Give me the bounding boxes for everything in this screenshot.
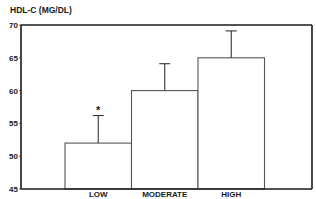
y-tick-label: 65 <box>9 54 18 63</box>
bar-moderate <box>132 91 199 189</box>
bar-high <box>198 58 265 189</box>
bar-low <box>65 143 132 189</box>
x-tick-label: MODERATE <box>142 190 188 199</box>
y-tick-label: 50 <box>9 152 18 161</box>
bar-chart: HDL-C (MG/DL) 455055606570 LOWMODERATEHI… <box>0 0 316 199</box>
y-axis-label: HDL-C (MG/DL) <box>10 5 72 15</box>
x-tick-label: LOW <box>89 190 108 199</box>
y-tick-label: 60 <box>9 87 18 96</box>
y-ticks: 455055606570 <box>9 21 21 194</box>
significance-asterisk: * <box>96 104 101 116</box>
y-tick-label: 45 <box>9 185 18 194</box>
y-tick-label: 70 <box>9 21 18 30</box>
x-tick-labels: LOWMODERATEHIGH <box>89 190 242 199</box>
annotations: * <box>96 104 101 116</box>
y-tick-label: 55 <box>9 119 18 128</box>
x-tick-label: HIGH <box>221 190 241 199</box>
